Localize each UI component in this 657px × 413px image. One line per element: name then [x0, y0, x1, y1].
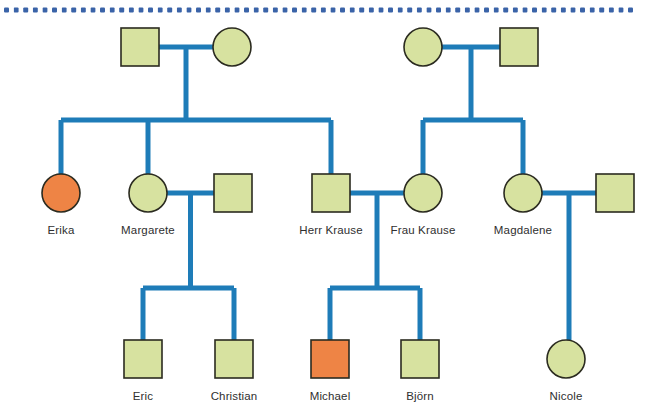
- person-node-magdalene-circle-unaffected[interactable]: [504, 174, 542, 212]
- person-label-magdalene: Magdalene: [494, 224, 552, 237]
- person-node-frau-krause-circle-unaffected[interactable]: [404, 174, 442, 212]
- person-node-margarete-circle-unaffected[interactable]: [129, 174, 167, 212]
- person-label-herr-krause: Herr Krause: [299, 224, 363, 237]
- person-label-margarete: Margarete: [121, 224, 175, 237]
- person-label-michael: Michael: [310, 390, 351, 403]
- person-node-michael-square-affected[interactable]: [311, 340, 349, 378]
- person-node-eric-square-unaffected[interactable]: [124, 340, 162, 378]
- person-label-eric: Eric: [133, 390, 153, 403]
- person-node-g1f2-circle-unaffected[interactable]: [404, 28, 442, 66]
- person-node-erika-circle-affected[interactable]: [42, 174, 80, 212]
- pedigree-chart-page: ErikaMargareteHerr KrauseFrau KrauseMagd…: [0, 0, 657, 413]
- person-label-erika: Erika: [48, 224, 75, 237]
- person-label-christian: Christian: [211, 390, 258, 403]
- person-node-margspouse-square-unaffected[interactable]: [214, 174, 252, 212]
- person-node-g1m1-square-unaffected[interactable]: [121, 28, 159, 66]
- person-node-christian-square-unaffected[interactable]: [215, 340, 253, 378]
- person-node-g1f1-circle-unaffected[interactable]: [213, 28, 251, 66]
- person-node-björn-square-unaffected[interactable]: [401, 340, 439, 378]
- person-nodes: [42, 28, 634, 378]
- pedigree-diagram: [0, 0, 657, 413]
- person-label-frau-krause: Frau Krause: [391, 224, 456, 237]
- person-node-g1m2-square-unaffected[interactable]: [500, 28, 538, 66]
- person-node-herr-krause-square-unaffected[interactable]: [312, 174, 350, 212]
- person-label-björn: Björn: [406, 390, 434, 403]
- person-label-nicole: Nicole: [550, 390, 583, 403]
- person-node-nicole-circle-unaffected[interactable]: [547, 340, 585, 378]
- person-node-magdspouse-square-unaffected[interactable]: [596, 174, 634, 212]
